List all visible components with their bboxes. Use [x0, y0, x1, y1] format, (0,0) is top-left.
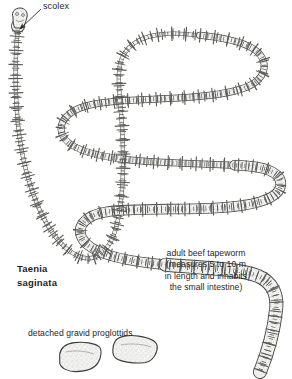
segment-divisions-tail	[16, 26, 281, 372]
segment-divisions-thin	[16, 26, 281, 372]
body-outline-tail	[16, 26, 281, 372]
strobila-segmented-body	[16, 26, 281, 372]
body-fill-tail	[16, 26, 281, 372]
detached-proglottid-1	[57, 339, 103, 373]
species-name-label: Taenia saginata	[17, 262, 57, 290]
adult-tapeworm-description: adult beef tapeworm (measures 5 to 10 m …	[142, 248, 270, 294]
scolex-head	[12, 8, 27, 28]
body-fill-wide	[16, 26, 281, 372]
body-fill-mid	[16, 26, 281, 372]
segment-divisions-wide	[16, 26, 281, 372]
scolex-label: scolex	[43, 1, 69, 13]
body-outline-thin	[16, 26, 281, 372]
body-outline-wide	[16, 26, 281, 372]
tapeworm-figure	[0, 0, 292, 379]
body-fill-thin	[16, 26, 281, 372]
segment-divisions-mid	[16, 26, 281, 372]
body-outline-mid	[16, 26, 281, 372]
tapeworm-illustration	[0, 0, 292, 379]
detached-proglottids-label: detached gravid proglottids	[28, 328, 133, 339]
